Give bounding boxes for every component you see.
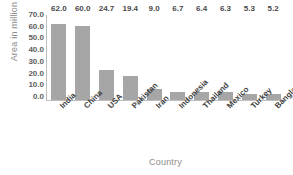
bar-value-label: 9.0 <box>149 5 160 13</box>
y-axis-tick: 30.0 <box>18 58 44 66</box>
y-axis-tick: 20.0 <box>18 70 44 78</box>
y-axis-tick: 0.0 <box>18 93 44 101</box>
x-tick-slot: Indonesia <box>166 101 190 156</box>
bar-slot: 24.7 <box>95 15 119 100</box>
bar-value-label: 6.7 <box>172 5 183 13</box>
x-tick-slot: USA <box>94 101 118 156</box>
x-tick-slot: India <box>46 101 70 156</box>
x-tick-slot: Bangladesh <box>261 101 285 156</box>
y-axis-tick: 60.0 <box>18 23 44 31</box>
y-axis-tick: 70.0 <box>18 11 44 19</box>
bar-value-label: 24.7 <box>99 5 115 13</box>
plot-area: 62.060.024.719.49.06.76.46.35.35.2 <box>46 15 285 101</box>
bar-slot: 6.7 <box>166 15 190 100</box>
x-tick-slot: Turkey <box>237 101 261 156</box>
bar-value-label: 60.0 <box>75 5 91 13</box>
y-axis-tick-labels: 70.060.050.040.030.020.010.00.0 <box>18 12 44 104</box>
bar-value-label: 5.3 <box>244 5 255 13</box>
y-axis-tick: 10.0 <box>18 81 44 89</box>
bar-value-label: 6.4 <box>196 5 207 13</box>
x-tick-slot: Mexico <box>213 101 237 156</box>
x-tick-slot: Iran <box>142 101 166 156</box>
x-axis-tick-labels: IndiaChinaUSAPakistanIranIndonesiaThaila… <box>46 101 285 156</box>
y-axis-tick: 50.0 <box>18 34 44 42</box>
bar-value-label: 5.2 <box>268 5 279 13</box>
x-tick-slot: China <box>70 101 94 156</box>
bar-value-label: 6.3 <box>220 5 231 13</box>
bar-slot: 62.0 <box>47 15 71 100</box>
bar[interactable] <box>75 26 90 100</box>
bar-series: 62.060.024.719.49.06.76.46.35.35.2 <box>47 15 285 100</box>
bar[interactable] <box>123 76 138 100</box>
bar[interactable] <box>51 24 66 100</box>
bar-slot: 60.0 <box>71 15 95 100</box>
bar-value-label: 62.0 <box>51 5 67 13</box>
x-tick-slot: Thailand <box>189 101 213 156</box>
y-axis-tick: 40.0 <box>18 46 44 54</box>
x-axis-title: Country <box>46 157 285 167</box>
bar-slot: 19.4 <box>118 15 142 100</box>
x-tick-slot: Pakistan <box>118 101 142 156</box>
bar-chart: Area in million ha 70.060.050.040.030.02… <box>0 0 293 175</box>
bar-value-label: 19.4 <box>122 5 138 13</box>
